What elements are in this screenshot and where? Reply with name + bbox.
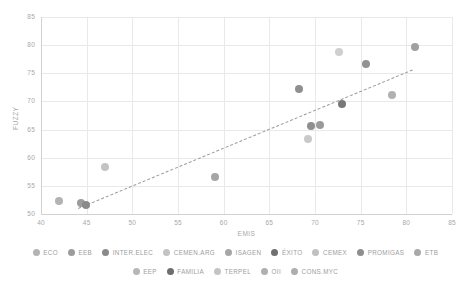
gridline-vertical — [315, 17, 316, 214]
legend-item-label: INTER.ELEC — [113, 249, 154, 256]
legend-marker-dot-icon — [68, 249, 75, 256]
legend-marker-dot-icon — [214, 268, 221, 275]
legend-item[interactable]: TERPEL — [214, 268, 251, 275]
legend-marker-dot-icon — [225, 249, 232, 256]
legend-marker-dot-icon — [133, 268, 140, 275]
y-tick-label: 75 — [9, 69, 35, 76]
gridline-horizontal — [41, 101, 452, 102]
legend-item[interactable]: OII — [261, 268, 281, 275]
legend-item-label: CEMEN.ARG — [174, 249, 215, 256]
legend-item[interactable]: ECO — [33, 249, 58, 256]
x-tick-label: 75 — [346, 219, 376, 226]
scatter-chart-page: 404550556065707580855055606570758085EMIS… — [0, 0, 471, 293]
legend-item[interactable]: CEMEX — [312, 249, 347, 256]
gridline-vertical — [406, 17, 407, 214]
x-tick-label: 85 — [437, 219, 467, 226]
legend-item[interactable]: CEMEN.ARG — [163, 249, 215, 256]
y-tick-label: 80 — [9, 41, 35, 48]
data-point[interactable] — [101, 163, 109, 171]
x-tick-label: 60 — [209, 219, 239, 226]
gridline-horizontal — [41, 45, 452, 46]
legend-item-label: ECO — [43, 249, 58, 256]
legend-item-label: CONS.MYC — [302, 268, 339, 275]
data-point[interactable] — [338, 100, 346, 108]
data-point[interactable] — [316, 121, 324, 129]
legend-item[interactable]: EEP — [133, 268, 157, 275]
legend-item[interactable]: CONS.MYC — [291, 268, 338, 275]
chart-plot-area: 404550556065707580855055606570758085EMIS… — [0, 0, 471, 240]
x-tick-label: 65 — [254, 219, 284, 226]
x-axis-line — [41, 214, 452, 215]
y-tick-label: 50 — [9, 210, 35, 217]
x-tick-label: 40 — [26, 219, 56, 226]
legend-item-label: TERPEL — [224, 268, 251, 275]
gridline-vertical — [361, 17, 362, 214]
legend-marker-dot-icon — [167, 268, 174, 275]
legend-marker-dot-icon — [102, 249, 109, 256]
gridline-vertical — [269, 17, 270, 214]
legend-item-label: PROMIGAS — [368, 249, 405, 256]
legend-marker-dot-icon — [261, 268, 268, 275]
legend-item[interactable]: EEB — [68, 249, 92, 256]
legend-item-label: EEP — [143, 268, 157, 275]
gridline-vertical — [178, 17, 179, 214]
gridline-vertical — [224, 17, 225, 214]
legend-item-label: OII — [272, 268, 281, 275]
legend-item[interactable]: ETB — [414, 249, 438, 256]
legend-marker-dot-icon — [312, 249, 319, 256]
data-point[interactable] — [295, 85, 303, 93]
data-point[interactable] — [304, 135, 312, 143]
x-tick-label: 80 — [391, 219, 421, 226]
gridline-horizontal — [41, 186, 452, 187]
data-point[interactable] — [211, 173, 219, 181]
gridline-vertical — [452, 17, 453, 214]
x-tick-label: 45 — [72, 219, 102, 226]
legend-marker-dot-icon — [271, 249, 278, 256]
gridline-vertical — [87, 17, 88, 214]
x-axis-title: EMIS — [227, 230, 267, 237]
y-tick-label: 85 — [9, 13, 35, 20]
legend-marker-dot-icon — [163, 249, 170, 256]
legend-marker-dot-icon — [33, 249, 40, 256]
legend-item[interactable]: FAMILIA — [167, 268, 204, 275]
legend-item[interactable]: INTER.ELEC — [102, 249, 153, 256]
legend-item-label: EEB — [79, 249, 93, 256]
legend-item-label: FAMILIA — [177, 268, 204, 275]
legend-row-secondary: EEPFAMILIATERPELOIICONS.MYC — [0, 262, 471, 281]
data-point[interactable] — [362, 60, 370, 68]
y-axis-title: FUZZY — [12, 106, 19, 129]
gridline-horizontal — [41, 73, 452, 74]
legend-item-label: CEMEX — [323, 249, 347, 256]
legend-row-primary: ECOEEBINTER.ELECCEMEN.ARGISAGENÉXITOCEME… — [0, 243, 471, 262]
y-tick-label: 55 — [9, 182, 35, 189]
data-point[interactable] — [411, 43, 419, 51]
gridline-horizontal — [41, 158, 452, 159]
legend-marker-dot-icon — [414, 249, 421, 256]
x-tick-label: 50 — [117, 219, 147, 226]
legend-item[interactable]: ÉXITO — [271, 249, 302, 256]
gridline-horizontal — [41, 130, 452, 131]
y-tick-label: 70 — [9, 97, 35, 104]
x-tick-label: 70 — [300, 219, 330, 226]
legend-marker-dot-icon — [357, 249, 364, 256]
legend-item-label: ISAGEN — [236, 249, 262, 256]
chart-legend: ECOEEBINTER.ELECCEMEN.ARGISAGENÉXITOCEME… — [0, 243, 471, 281]
legend-item-label: ÉXITO — [282, 249, 303, 256]
data-point[interactable] — [388, 91, 396, 99]
legend-item[interactable]: ISAGEN — [225, 249, 261, 256]
data-point[interactable] — [82, 201, 90, 209]
y-tick-label: 60 — [9, 154, 35, 161]
x-tick-label: 55 — [163, 219, 193, 226]
legend-item[interactable]: PROMIGAS — [357, 249, 404, 256]
y-axis-line — [41, 17, 42, 214]
legend-marker-dot-icon — [291, 268, 298, 275]
legend-item-label: ETB — [425, 249, 438, 256]
trendline-dashed — [78, 70, 413, 209]
gridline-horizontal — [41, 17, 452, 18]
data-point[interactable] — [335, 48, 343, 56]
data-point[interactable] — [55, 197, 63, 205]
